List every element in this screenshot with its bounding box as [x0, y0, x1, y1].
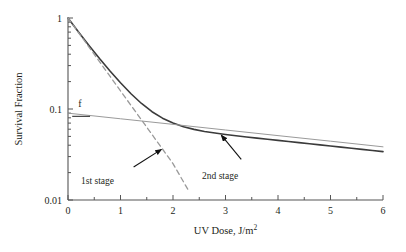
chart-canvas: 0 1 2 3 4 5 6 1 0.1 0.01 UV Dose, J/m2 S…: [0, 0, 406, 252]
y-axis-ticks: [68, 18, 73, 200]
second-stage-annotation-label: 2nd stage: [202, 171, 238, 181]
annotation-arrows: [134, 135, 242, 167]
y-axis-tick-labels: 1 0.1 0.01: [45, 13, 63, 206]
x-tick-label-4: 4: [276, 205, 281, 216]
x-tick-label-1: 1: [118, 205, 123, 216]
x-axis-title-superscript: 2: [253, 223, 257, 232]
second-stage-callout-arrow: [221, 135, 241, 159]
series-total-survival: [68, 18, 383, 152]
y-tick-label-0-1: 0.1: [50, 104, 63, 115]
x-axis-title-main: UV Dose, J/m: [194, 225, 254, 236]
first-stage-callout-arrow: [134, 149, 162, 167]
y-tick-label-0-01: 0.01: [45, 195, 63, 206]
x-tick-label-2: 2: [171, 205, 176, 216]
x-tick-label-0: 0: [66, 205, 71, 216]
data-series-layer: [68, 18, 383, 191]
x-tick-label-6: 6: [381, 205, 386, 216]
x-tick-label-5: 5: [328, 205, 333, 216]
x-axis-tick-labels: 0 1 2 3 4 5 6: [66, 205, 386, 216]
f-intercept-label: f: [78, 98, 82, 109]
x-axis-title: UV Dose, J/m2: [194, 223, 258, 236]
x-axis-ticks: [68, 195, 383, 200]
series-2nd-stage: [68, 113, 383, 147]
series-1st-stage: [68, 18, 189, 191]
survival-curve-figure: 0 1 2 3 4 5 6 1 0.1 0.01 UV Dose, J/m2 S…: [0, 0, 406, 252]
y-tick-label-1: 1: [57, 13, 62, 24]
y-axis-title: Survival Fraction: [13, 72, 24, 146]
first-stage-annotation-label: 1st stage: [81, 176, 114, 186]
x-tick-label-3: 3: [223, 205, 228, 216]
